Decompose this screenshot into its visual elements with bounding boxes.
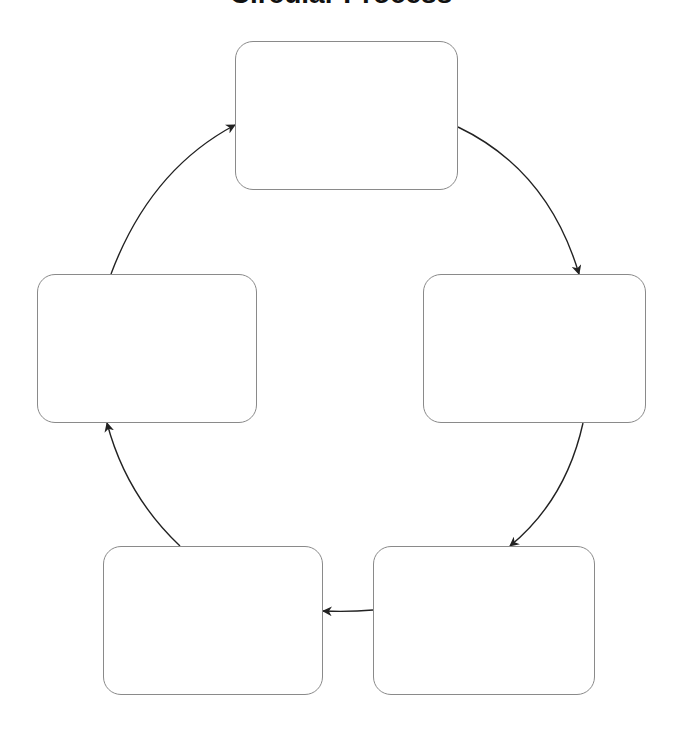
arrow-bottom-left-to-left — [107, 423, 180, 546]
arrow-bottom-right-to-bottom-left — [323, 610, 373, 611]
process-node-top — [235, 41, 458, 190]
process-node-right — [423, 274, 646, 423]
process-node-left — [37, 274, 257, 423]
process-node-bottom-left — [103, 546, 323, 695]
process-node-bottom-right — [373, 546, 595, 695]
arrow-right-to-bottom-right — [510, 423, 583, 546]
arrow-left-to-top — [111, 125, 235, 274]
arrow-top-to-right — [458, 127, 579, 274]
